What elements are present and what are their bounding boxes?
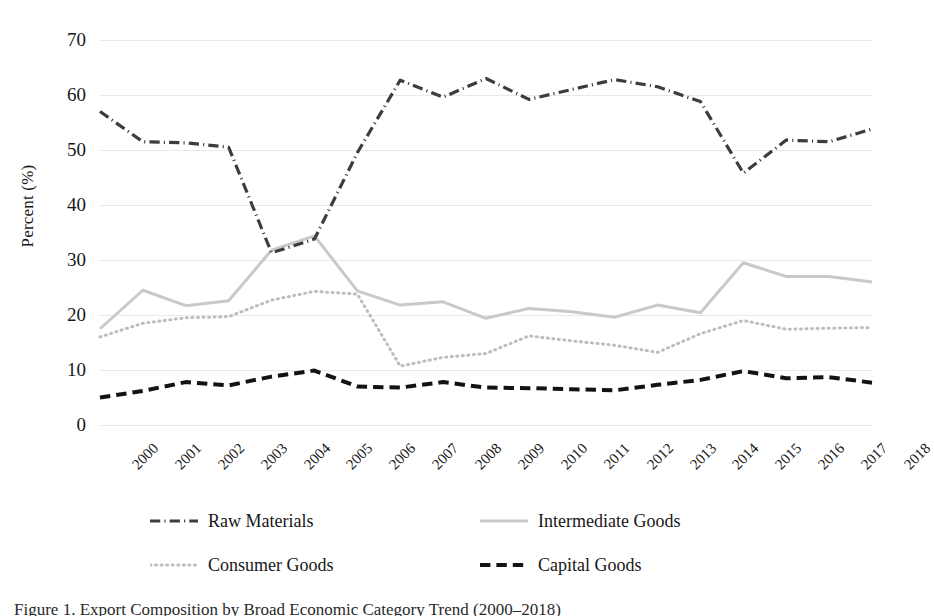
- legend-entry-raw-materials[interactable]: Raw Materials: [150, 508, 313, 534]
- legend-entry-intermediate-goods[interactable]: Intermediate Goods: [480, 508, 680, 534]
- x-tick-label: 2007: [429, 440, 462, 473]
- legend-swatch-intermediate-goods: [480, 514, 528, 528]
- series-line-capital-goods: [100, 371, 872, 398]
- x-tick-label: 2010: [558, 440, 591, 473]
- legend-label-raw-materials: Raw Materials: [208, 511, 313, 532]
- chart-legend: Raw Materials Intermediate Goods Consume…: [100, 508, 840, 590]
- legend-swatch-consumer-goods: [150, 558, 198, 572]
- y-axis-title: Percent (%): [18, 116, 38, 296]
- y-tick-label: 40: [40, 195, 86, 214]
- x-tick-label: 2014: [729, 440, 762, 473]
- x-tick-label: 2017: [858, 440, 891, 473]
- x-tick-label: 2006: [386, 440, 419, 473]
- x-tick-label: 2018: [901, 440, 934, 473]
- y-tick-label: 70: [40, 30, 86, 49]
- series-line-raw-materials: [100, 79, 872, 253]
- x-tick-label: 2015: [772, 440, 805, 473]
- x-tick-label: 2005: [343, 440, 376, 473]
- series-line-intermediate-goods: [100, 236, 872, 329]
- plot-area: [100, 40, 872, 425]
- x-axis-tick-labels: 2000200120022003200420052006200720082009…: [100, 428, 872, 508]
- legend-label-capital-goods: Capital Goods: [538, 555, 642, 576]
- legend-swatch-capital-goods: [480, 558, 528, 572]
- series-lines: [100, 40, 872, 425]
- x-tick-label: 2003: [257, 440, 290, 473]
- x-tick-label: 2013: [686, 440, 719, 473]
- x-tick-label: 2002: [215, 440, 248, 473]
- y-tick-label: 30: [40, 250, 86, 269]
- x-tick-label: 2011: [600, 440, 633, 473]
- x-tick-label: 2008: [472, 440, 505, 473]
- x-tick-label: 2004: [300, 440, 333, 473]
- x-tick-label: 2012: [643, 440, 676, 473]
- x-tick-label: 2009: [515, 440, 548, 473]
- x-tick-label: 2001: [172, 440, 205, 473]
- y-tick-label: 20: [40, 305, 86, 324]
- y-tick-label: 0: [40, 415, 86, 434]
- x-tick-label: 2000: [129, 440, 162, 473]
- y-tick-label: 10: [40, 360, 86, 379]
- x-tick-label: 2016: [815, 440, 848, 473]
- y-tick-label: 60: [40, 85, 86, 104]
- legend-label-consumer-goods: Consumer Goods: [208, 555, 334, 576]
- legend-label-intermediate-goods: Intermediate Goods: [538, 511, 680, 532]
- y-tick-label: 50: [40, 140, 86, 159]
- figure-caption: Figure 1. Export Composition by Broad Ec…: [14, 600, 874, 616]
- y-axis-tick-labels: 010203040506070: [36, 40, 86, 425]
- legend-swatch-raw-materials: [150, 514, 198, 528]
- legend-entry-consumer-goods[interactable]: Consumer Goods: [150, 552, 334, 578]
- legend-entry-capital-goods[interactable]: Capital Goods: [480, 552, 642, 578]
- gridline: [100, 425, 872, 426]
